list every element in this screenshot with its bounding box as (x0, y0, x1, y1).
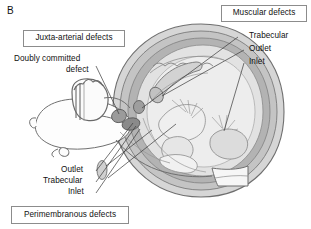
muscular-inlet-label: Inlet (249, 57, 265, 67)
doubly-committed-defect-label-line1: Doubly committed (14, 54, 80, 64)
outflow-vessel (212, 166, 248, 186)
perimembranous-defects-box: Perimembranous defects (11, 206, 129, 224)
panel-letter: B (7, 5, 14, 16)
muscular-defects-box: Muscular defects (221, 5, 307, 22)
figure-panel: B Juxta-arterial defects Muscular defect… (0, 0, 311, 229)
perimembranous-trabecular-label: Trabecular (43, 176, 82, 186)
perimembranous-inlet-label: Inlet (68, 187, 84, 197)
juxta-arterial-defects-box: Juxta-arterial defects (23, 30, 125, 47)
perimembranous-outlet-label: Outlet (61, 165, 83, 175)
muscular-trabecular-label: Trabecular (249, 31, 288, 41)
doubly-committed-defect-label-line2: defect (66, 65, 89, 75)
muscular-outlet-label: Outlet (249, 44, 271, 54)
